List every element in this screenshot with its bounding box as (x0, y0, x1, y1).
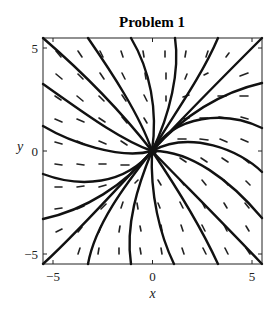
chart-title: Problem 1 (119, 14, 185, 30)
x-tick-label: 5 (249, 269, 256, 284)
phase-portrait-figure: Problem 1 (0, 0, 278, 312)
equilibrium-point (148, 147, 157, 156)
y-tick-label: 0 (32, 144, 39, 159)
x-tick-label: −5 (46, 269, 60, 284)
y-axis-label: y (15, 139, 24, 154)
y-tick-label: 5 (32, 41, 39, 56)
plot-area (43, 38, 262, 264)
x-axis-label: x (148, 286, 156, 301)
y-tick-label: −5 (24, 247, 38, 262)
x-tick-label: 0 (149, 269, 156, 284)
